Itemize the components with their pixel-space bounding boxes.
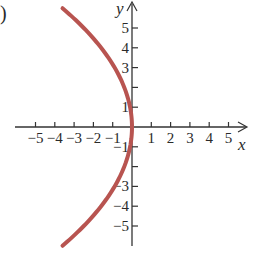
x-tick-label: 3 xyxy=(186,130,194,146)
x-tick-label: 5 xyxy=(225,130,233,146)
panel-label: ) xyxy=(0,2,7,25)
y-tick-label: 5 xyxy=(122,20,130,36)
x-tick-label: 2 xyxy=(167,130,175,146)
x-tick-label: −5 xyxy=(28,130,44,146)
x-tick-label: −3 xyxy=(66,130,82,146)
y-tick-label: −5 xyxy=(113,218,129,234)
x-tick-label: −2 xyxy=(85,130,101,146)
x-tick-label: −4 xyxy=(47,130,63,146)
y-tick-label: −1 xyxy=(113,139,129,155)
y-tick-label: 3 xyxy=(122,60,130,76)
y-axis-label: y xyxy=(114,0,124,18)
parabola-chart: ) −5−4−3−2−112345 5431−1−3−4−5 x y xyxy=(0,0,262,254)
x-tick-label: 1 xyxy=(148,130,156,146)
x-axis-label: x xyxy=(237,135,246,154)
y-tick-label: 4 xyxy=(122,40,130,56)
y-tick-label: −4 xyxy=(113,198,129,214)
x-tick-label: 4 xyxy=(205,130,213,146)
